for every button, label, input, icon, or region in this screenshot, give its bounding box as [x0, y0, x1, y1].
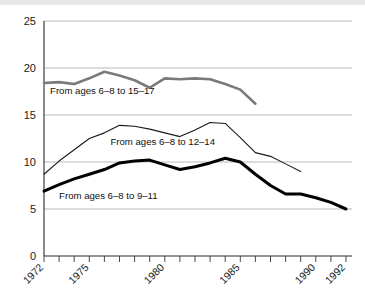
x-axis-ticks — [44, 256, 346, 262]
series-label-0: From ages 6–8 to 15–17 — [50, 85, 155, 96]
series-label-1: From ages 6–8 to 12–14 — [110, 136, 215, 147]
y-tick-label-20: 20 — [24, 62, 36, 74]
y-tick-label-0: 0 — [30, 250, 36, 262]
y-tick-label-5: 5 — [30, 203, 36, 215]
y-tick-label-10: 10 — [24, 156, 36, 168]
top-edge-stripe — [0, 0, 365, 5]
chart-background — [0, 0, 365, 306]
y-tick-label-15: 15 — [24, 109, 36, 121]
series-label-2: From ages 6–8 to 9–11 — [59, 190, 158, 201]
chart-container: 0510152025 197219751980198519901992 From… — [0, 0, 365, 306]
line-chart: 0510152025 197219751980198519901992 From… — [0, 0, 365, 306]
y-tick-label-25: 25 — [24, 15, 36, 27]
